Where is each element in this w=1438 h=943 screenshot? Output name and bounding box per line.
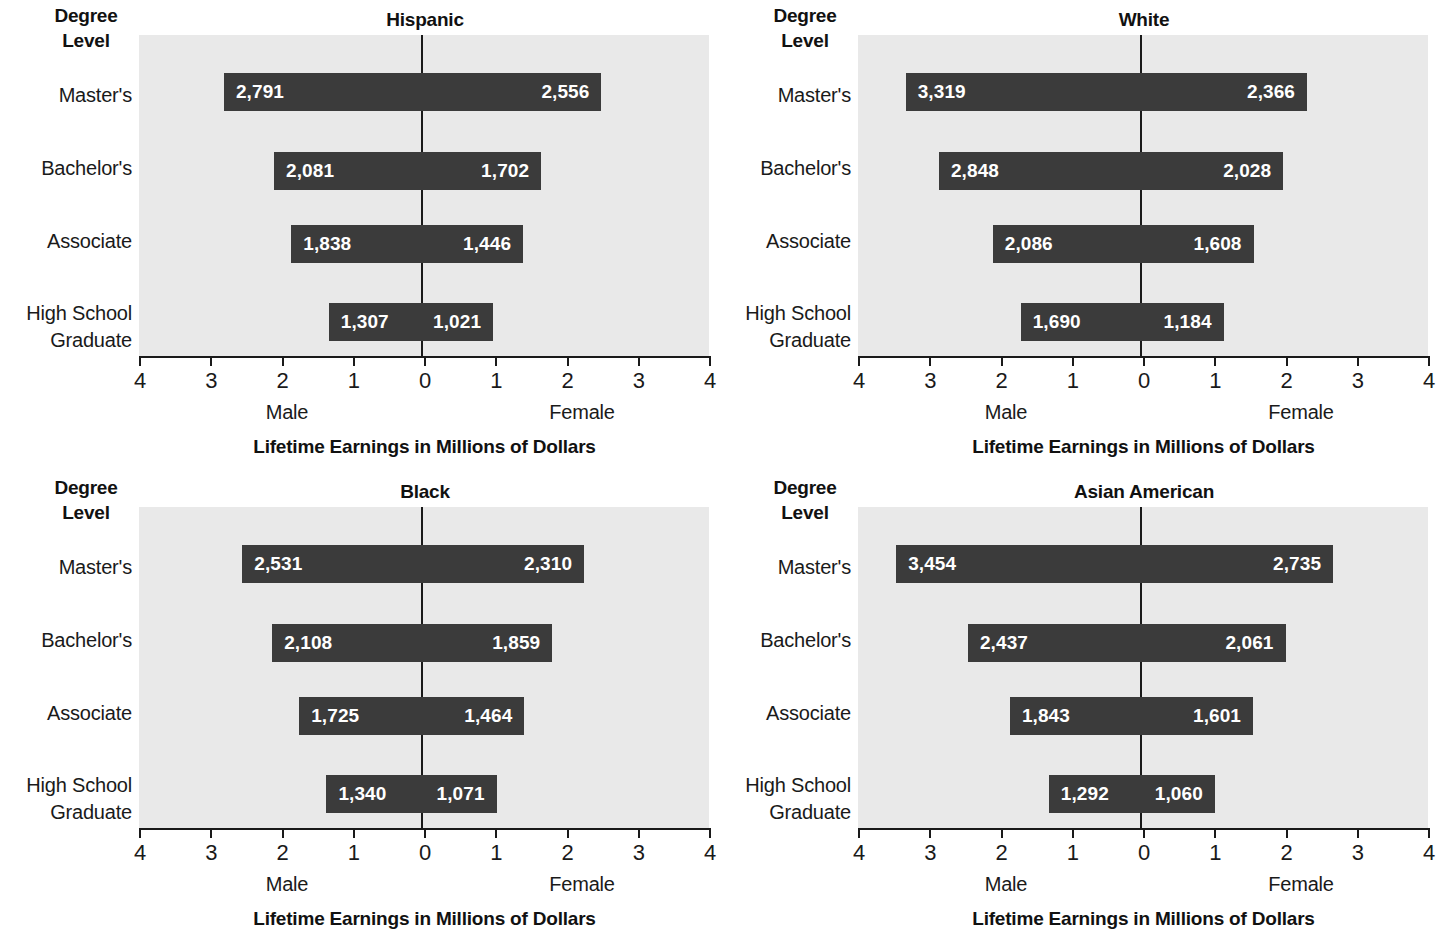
row-label-associate: Associate (719, 228, 851, 255)
x-axis-tick-label: 2 (553, 368, 583, 394)
bar-value-female: 1,071 (437, 783, 497, 805)
plot-area-black: 2,5312,3102,1081,8591,7251,4641,3401,071 (139, 507, 709, 828)
bar-value-female: 1,060 (1155, 783, 1215, 805)
bar-male-associate: 1,725 (299, 697, 421, 735)
bar-male-bachelor-s: 2,108 (272, 624, 421, 662)
row-label-line: Graduate (0, 327, 132, 354)
degree-level-header: DegreeLevel (745, 3, 865, 53)
row-label-bachelor-s: Bachelor's (719, 627, 851, 654)
x-axis-tick (1428, 356, 1430, 366)
x-axis-tick-label: 2 (1272, 368, 1302, 394)
male-axis-caption: Male (212, 401, 362, 424)
x-axis-tick (1286, 356, 1288, 366)
x-axis-tick (1072, 828, 1074, 838)
chart-panel-asian-american: DegreeLevelAsian American3,4542,7352,437… (719, 472, 1438, 943)
x-axis-tick-label: 1 (1200, 840, 1230, 866)
degree-level-header: DegreeLevel (26, 3, 146, 53)
bar-male-associate: 1,838 (291, 225, 421, 263)
bar-male-master-s: 2,791 (224, 73, 421, 111)
x-axis-tick (424, 828, 426, 838)
bar-female-associate: 1,608 (1140, 225, 1254, 263)
x-axis-tick-label: 1 (1200, 368, 1230, 394)
x-axis-tick-label: 4 (125, 840, 155, 866)
bar-value-male: 1,690 (1021, 311, 1081, 333)
row-label-line: Associate (719, 700, 851, 727)
x-axis-tick (424, 356, 426, 366)
x-axis-white: 432101234 (858, 356, 1429, 358)
row-label-line: Bachelor's (0, 627, 132, 654)
x-axis-tick-label: 2 (987, 368, 1017, 394)
row-label-associate: Associate (0, 228, 132, 255)
plot-area-white: 3,3192,3662,8482,0282,0861,6081,6901,184 (858, 35, 1428, 356)
axis-title-white: Lifetime Earnings in Millions of Dollars (858, 436, 1429, 458)
x-axis-tick-label: 3 (1343, 840, 1373, 866)
bar-male-master-s: 3,319 (906, 73, 1140, 111)
bar-male-associate: 1,843 (1010, 697, 1140, 735)
bar-value-male: 2,108 (272, 632, 332, 654)
x-axis-tick-label: 2 (1272, 840, 1302, 866)
bar-value-male: 1,843 (1010, 705, 1070, 727)
x-axis-tick-label: 4 (1414, 368, 1438, 394)
bar-female-associate: 1,601 (1140, 697, 1253, 735)
row-label-master-s: Master's (0, 554, 132, 581)
x-axis-tick-label: 3 (196, 368, 226, 394)
x-axis-tick (495, 828, 497, 838)
row-label-line: Graduate (719, 799, 851, 826)
female-axis-caption: Female (1226, 873, 1376, 896)
degree-level-header-line: Level (745, 28, 865, 53)
row-label-line: Master's (0, 82, 132, 109)
axis-title-black: Lifetime Earnings in Millions of Dollars (139, 908, 710, 930)
bar-value-female: 1,464 (464, 705, 524, 727)
x-axis-tick-label: 3 (915, 368, 945, 394)
bar-female-high-school-graduate: 1,021 (421, 303, 493, 341)
x-axis-tick (929, 356, 931, 366)
row-label-master-s: Master's (719, 554, 851, 581)
plot-area-hispanic: 2,7912,5562,0811,7021,8381,4461,3071,021 (139, 35, 709, 356)
x-axis-tick (1214, 356, 1216, 366)
degree-level-header-line: Level (745, 500, 865, 525)
row-label-line: High School (0, 772, 132, 799)
x-axis-tick (1001, 828, 1003, 838)
bar-value-female: 2,366 (1247, 81, 1307, 103)
plot-area-asian-american: 3,4542,7352,4372,0611,8431,6011,2921,060 (858, 507, 1428, 828)
row-label-associate: Associate (0, 700, 132, 727)
row-label-master-s: Master's (719, 82, 851, 109)
bar-value-male: 1,292 (1049, 783, 1109, 805)
bar-female-high-school-graduate: 1,071 (421, 775, 497, 813)
bar-value-male: 2,531 (242, 553, 302, 575)
x-axis-tick (929, 828, 931, 838)
x-axis-tick-label: 1 (339, 840, 369, 866)
x-axis-tick-label: 4 (844, 840, 874, 866)
x-axis-tick (353, 828, 355, 838)
row-label-associate: Associate (719, 700, 851, 727)
x-axis-hispanic: 432101234 (139, 356, 710, 358)
bar-male-bachelor-s: 2,848 (939, 152, 1140, 190)
row-label-line: Associate (0, 228, 132, 255)
bar-value-male: 2,437 (968, 632, 1028, 654)
bar-male-bachelor-s: 2,437 (968, 624, 1140, 662)
degree-level-header-line: Degree (26, 475, 146, 500)
row-label-line: Graduate (0, 799, 132, 826)
chart-panel-hispanic: DegreeLevelHispanic2,7912,5562,0811,7021… (0, 0, 719, 471)
male-axis-caption: Male (212, 873, 362, 896)
female-axis-caption: Female (507, 401, 657, 424)
bar-female-high-school-graduate: 1,060 (1140, 775, 1215, 813)
bar-value-female: 1,184 (1164, 311, 1224, 333)
bar-male-master-s: 3,454 (896, 545, 1140, 583)
row-label-high-school-graduate: High SchoolGraduate (0, 300, 132, 354)
x-axis-tick (638, 828, 640, 838)
x-axis-tick-label: 1 (1058, 840, 1088, 866)
bar-female-bachelor-s: 1,702 (421, 152, 541, 190)
x-axis-tick (1357, 356, 1359, 366)
panel-title-asian-american: Asian American (859, 481, 1429, 503)
bar-value-male: 2,081 (274, 160, 334, 182)
row-label-line: High School (719, 772, 851, 799)
x-axis-tick-label: 1 (481, 368, 511, 394)
bar-value-male: 2,791 (224, 81, 284, 103)
bar-female-bachelor-s: 2,028 (1140, 152, 1283, 190)
x-axis-tick (353, 356, 355, 366)
x-axis-tick (1143, 356, 1145, 366)
x-axis-tick (139, 828, 141, 838)
degree-level-header: DegreeLevel (745, 475, 865, 525)
bar-value-male: 3,319 (906, 81, 966, 103)
